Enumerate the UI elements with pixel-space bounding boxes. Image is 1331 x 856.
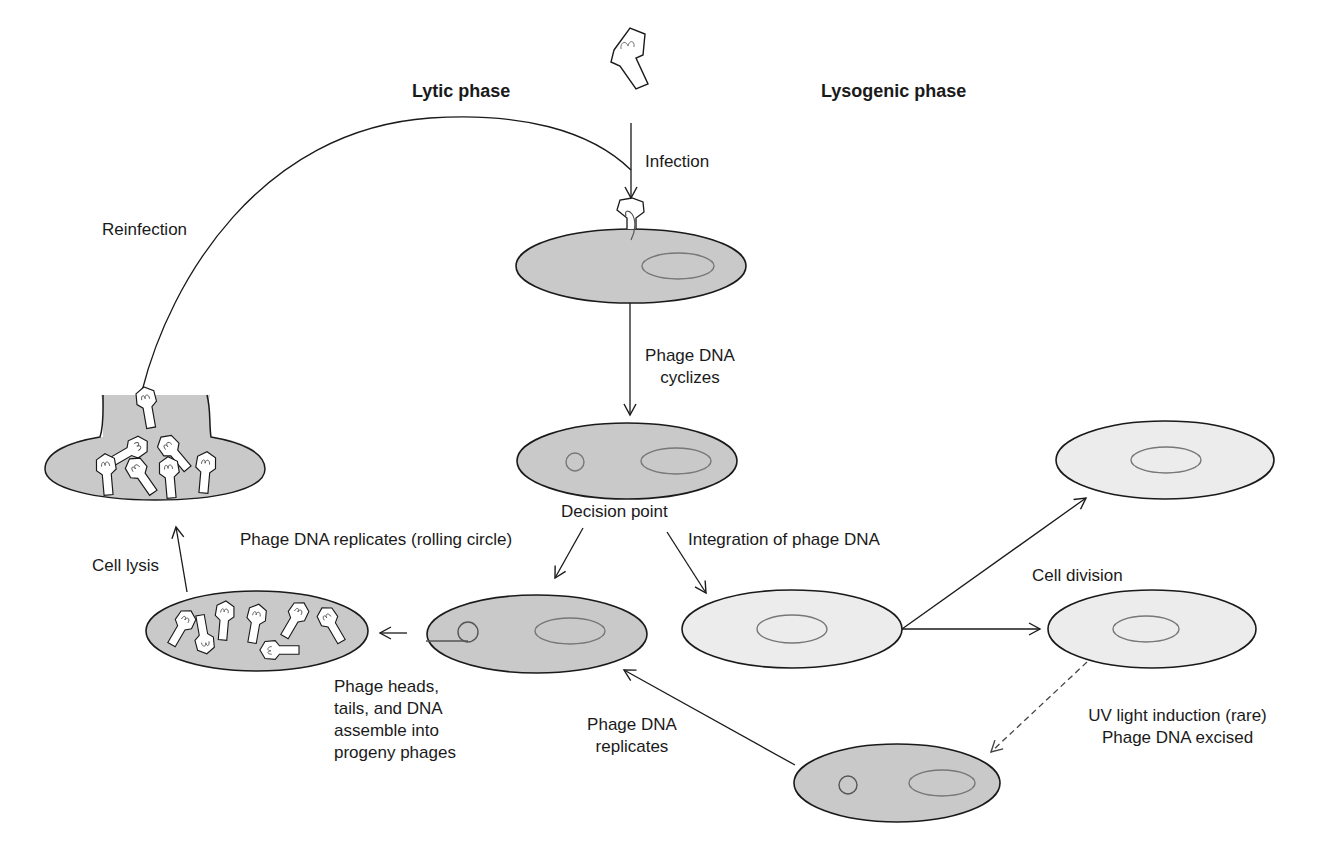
assembly-cell — [146, 591, 368, 671]
integration-label: Integration of phage DNA — [688, 529, 880, 551]
reinfection-label: Reinfection — [102, 219, 187, 241]
daughter-cell-bottom — [1048, 590, 1256, 668]
lysogen-cell — [682, 590, 902, 668]
cyclizes-label-line1: Phage DNA — [640, 345, 740, 367]
rolling-circle-label: Phage DNA replicates (rolling circle) — [240, 529, 512, 551]
daughter-cell-top — [1056, 421, 1274, 499]
assembly-label: Phage heads, tails, and DNA assemble int… — [334, 676, 456, 764]
decision-point-label: Decision point — [561, 501, 668, 523]
infection-label: Infection — [645, 151, 709, 173]
assembly-label-line1: Phage heads, — [334, 676, 456, 698]
induced-cell — [794, 744, 1000, 822]
cell-lysis-label: Cell lysis — [92, 555, 159, 577]
free-phage-icon — [611, 28, 648, 89]
assembly-label-line4: progeny phages — [334, 742, 456, 764]
cyclizes-label: Phage DNA cyclizes — [640, 345, 740, 389]
replicates-label-line1: Phage DNA — [572, 714, 692, 736]
cell-division-label: Cell division — [1032, 565, 1123, 587]
cyclizes-label-line2: cyclizes — [640, 367, 740, 389]
decision-cell — [517, 423, 737, 499]
cell-lysis-arrow — [176, 527, 187, 592]
lysed-cell — [45, 385, 265, 500]
assembly-label-line3: assemble into — [334, 720, 456, 742]
lytic-phase-title: Lytic phase — [412, 80, 510, 102]
rolling-circle-arrow — [555, 528, 583, 578]
rolling-circle-cell — [426, 595, 647, 673]
uv-induction-label-line2: Phage DNA excised — [1070, 727, 1285, 749]
assembly-label-line2: tails, and DNA — [334, 698, 456, 720]
lysogenic-phase-title: Lysogenic phase — [821, 80, 966, 102]
replicates-label: Phage DNA replicates — [572, 714, 692, 758]
uv-induction-label: UV light induction (rare) Phage DNA exci… — [1070, 705, 1285, 749]
uv-induction-label-line1: UV light induction (rare) — [1070, 705, 1285, 727]
cell-division-arrow-top — [902, 498, 1086, 629]
replicates-label-line2: replicates — [572, 736, 692, 758]
infected-cell — [516, 198, 746, 303]
